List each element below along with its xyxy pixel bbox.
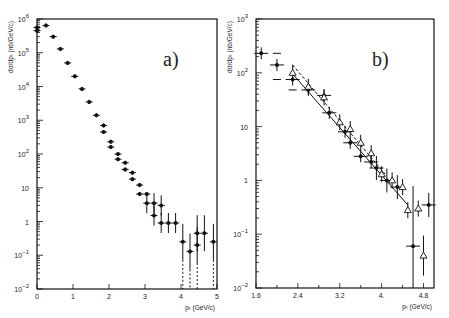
tick-label: 10 (240, 124, 248, 131)
tick-label: 10−2 (14, 283, 29, 293)
data-point (109, 140, 113, 144)
data-point-circle (275, 63, 279, 67)
data-point-triangle (336, 119, 343, 125)
data-point (152, 201, 156, 205)
data-point (116, 152, 120, 156)
tick-label: 4 (179, 293, 183, 300)
data-point-circle (411, 244, 415, 248)
tick-label: 1 (71, 293, 75, 300)
data-point (58, 47, 62, 51)
data-point-circle (359, 154, 363, 158)
tick-label: 4. (379, 292, 385, 299)
tick-label: 3.2 (335, 292, 345, 299)
tick-label: 1 (244, 177, 248, 184)
data-point (159, 203, 163, 207)
y-axis-label: dσ/dpₜ (nb/GeV/c) (226, 21, 234, 73)
data-point-circle (385, 178, 389, 182)
data-point (123, 161, 127, 165)
data-point (130, 177, 134, 181)
panel-label: b) (372, 48, 389, 71)
tick-label: 0 (35, 293, 39, 300)
data-point-circle (259, 51, 263, 55)
tick-label: 102 (237, 67, 249, 77)
data-point (109, 145, 113, 149)
data-point-circle (348, 141, 352, 145)
data-point (51, 35, 55, 39)
data-point-circle (395, 185, 399, 189)
tick-label: 1.6 (251, 292, 261, 299)
data-point-triangle (368, 150, 375, 156)
data-point-circle (427, 203, 431, 207)
tick-label: 102 (18, 148, 30, 158)
data-point-triangle (289, 69, 296, 75)
data-point (123, 167, 127, 171)
data-point (211, 240, 215, 244)
tick-label: 106 (18, 13, 30, 23)
tick-label: 10−2 (233, 282, 248, 292)
data-point (35, 29, 39, 33)
tick-label: 10−1 (14, 249, 29, 259)
x-axis-label: pₜ (GeV/c) (402, 303, 432, 311)
data-point (159, 221, 163, 225)
tick-label: 2 (107, 293, 111, 300)
figure: 10−210−1110102103104105106012345pₜ (GeV/… (0, 0, 449, 318)
data-point-triangle (347, 126, 354, 132)
tick-label: 105 (18, 47, 30, 57)
tick-label: 5 (215, 293, 219, 300)
data-point (181, 240, 185, 244)
data-point (195, 243, 199, 247)
data-point (102, 123, 106, 127)
data-point-triangle (305, 83, 312, 89)
data-point (145, 201, 149, 205)
data-point (94, 113, 98, 117)
tick-label: 104 (18, 81, 30, 91)
data-point (87, 100, 91, 104)
data-point (102, 130, 106, 134)
tick-label: 1 (25, 219, 29, 226)
data-point (73, 74, 77, 78)
data-point (152, 214, 156, 218)
data-point (138, 183, 142, 187)
tick-label: 103 (237, 13, 249, 23)
data-point-circle (374, 166, 378, 170)
data-point (174, 221, 178, 225)
data-point (166, 221, 170, 225)
tick-label: 2.4 (293, 292, 303, 299)
data-point (44, 24, 48, 28)
y-axis-label: dσ/dpₜ (nb/GeV/c) (7, 21, 15, 73)
data-point (80, 87, 84, 91)
tick-label: 4.8 (419, 292, 429, 299)
data-point-triangle (321, 94, 328, 100)
data-point (66, 61, 70, 65)
data-point (138, 192, 142, 196)
tick-label: 103 (18, 114, 30, 124)
x-axis-label: pₜ (GeV/c) (185, 304, 215, 312)
data-point-triangle (420, 252, 427, 258)
panel-a-chart: 10−210−1110102103104105106012345pₜ (GeV/… (7, 13, 219, 312)
data-point-triangle (415, 205, 422, 211)
tick-label: 10−1 (233, 228, 248, 238)
data-point-triangle (404, 207, 411, 213)
data-point (188, 249, 192, 253)
plot-frame (256, 19, 434, 288)
data-point-circle (327, 111, 331, 115)
tick-label: 10 (21, 185, 29, 192)
data-point (202, 231, 206, 235)
panel-b-chart: 10−210−11101021031.62.43.24.4.8pₜ (GeV/c… (226, 13, 436, 311)
tick-label: 3 (143, 293, 147, 300)
panel-label: a) (163, 48, 179, 71)
data-point (116, 157, 120, 161)
data-point (130, 171, 134, 175)
